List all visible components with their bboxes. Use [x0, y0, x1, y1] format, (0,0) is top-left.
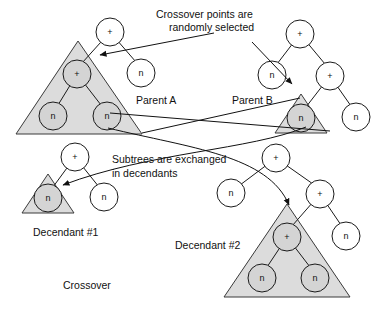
node-label: n — [259, 273, 264, 283]
node-d1-right-leaf: n — [90, 183, 118, 211]
node-label: + — [284, 232, 289, 242]
node-label: + — [273, 153, 278, 163]
node-pb-root: + — [286, 20, 314, 48]
node-pa-sub-right: n — [93, 102, 121, 130]
node-d2-right-leaf: n — [332, 222, 360, 250]
crossover-diagram-canvas: + n + n n — [0, 0, 383, 313]
node-label: n — [45, 193, 50, 203]
node-label: + — [297, 29, 302, 39]
node-d2-left-leaf: n — [217, 179, 245, 207]
tree-parent-b: + n + n n — [258, 20, 370, 133]
node-d2-sub-right: n — [301, 264, 329, 292]
node-d2-sub-root: + — [273, 223, 301, 251]
tree-decendant-2: + n + n + n n — [217, 144, 360, 297]
node-label: n — [138, 68, 143, 78]
node-label: n — [228, 188, 233, 198]
node-pb-right-leaf: n — [342, 103, 370, 131]
node-label: n — [50, 111, 55, 121]
node-label: + — [72, 152, 77, 162]
node-pa-sub-left: n — [39, 102, 67, 130]
node-pb-left-leaf: n — [258, 61, 286, 89]
node-d2-root: + — [262, 144, 290, 172]
node-d1-sub-root: n — [34, 184, 62, 212]
caption-parent-a: Parent A — [136, 94, 176, 106]
crossover-points-line-1: Crossover points are — [156, 8, 253, 20]
node-label: + — [327, 71, 332, 81]
node-pa-root: + — [96, 18, 124, 46]
node-label: n — [101, 192, 106, 202]
caption-decendant-2: Decendant #2 — [175, 239, 241, 251]
subtrees-exchanged-line-1: Subtrees are exchanged — [112, 153, 227, 165]
caption-parent-b: Parent B — [232, 94, 273, 106]
caption-decendant-1: Decendant #1 — [33, 226, 99, 238]
node-pa-right-leaf: n — [127, 59, 155, 87]
node-pb-right: + — [316, 62, 344, 90]
node-label: n — [343, 231, 348, 241]
subtrees-exchanged-line-2: in decendants — [112, 167, 177, 179]
node-label: n — [312, 273, 317, 283]
crossover-points-line-2: randomly selected — [169, 21, 254, 33]
caption-crossover: Crossover — [63, 279, 111, 291]
crossover-diagram: + n + n n — [0, 0, 383, 313]
node-label: n — [353, 112, 358, 122]
node-d2-sub-left: n — [248, 264, 276, 292]
node-d1-root: + — [61, 143, 89, 171]
node-label: n — [298, 113, 303, 123]
node-label: + — [74, 69, 79, 79]
node-label: + — [107, 27, 112, 37]
tree-decendant-1: + n n — [22, 143, 118, 213]
node-label: n — [269, 70, 274, 80]
node-d2-right: + — [306, 180, 334, 208]
node-label: + — [317, 189, 322, 199]
node-pa-sub-root: + — [63, 60, 91, 88]
node-label: n — [104, 111, 109, 121]
tree-parent-a: + n + n n — [16, 18, 155, 134]
